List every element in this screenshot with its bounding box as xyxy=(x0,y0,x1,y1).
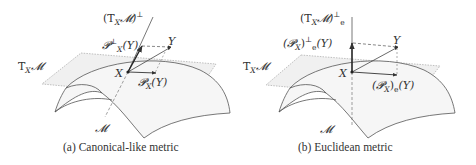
label-x: X xyxy=(115,68,123,79)
label-manifold: 𝓜 xyxy=(320,124,332,135)
caption-b: (b) Euclidean metric xyxy=(298,142,393,154)
label-tangent-space: TX𝓜 xyxy=(18,61,43,72)
panel-b-figure xyxy=(266,17,455,138)
point-x xyxy=(126,70,129,73)
caption-a: (a) Canonical-like metric xyxy=(63,142,179,154)
label-y: Y xyxy=(393,35,400,46)
label-proj-perp: 𝓟⊥X(Y) xyxy=(102,40,138,51)
label-proj-perp: (𝓟X)⊥e(Y) xyxy=(283,38,332,49)
label-proj: (𝓟X)e(Y) xyxy=(372,80,414,91)
label-x: X xyxy=(339,68,347,79)
point-x xyxy=(350,70,353,73)
label-normal-space: (TX𝓜)⊥e xyxy=(300,13,345,24)
label-normal-space: (TX𝓜)⊥ xyxy=(103,13,143,24)
label-tangent-space: TX𝓜 xyxy=(243,61,268,72)
label-proj: 𝓟X(Y) xyxy=(138,77,167,88)
panel-a-figure xyxy=(42,17,230,138)
label-y: Y xyxy=(168,36,175,47)
label-manifold: 𝓜 xyxy=(95,123,107,134)
